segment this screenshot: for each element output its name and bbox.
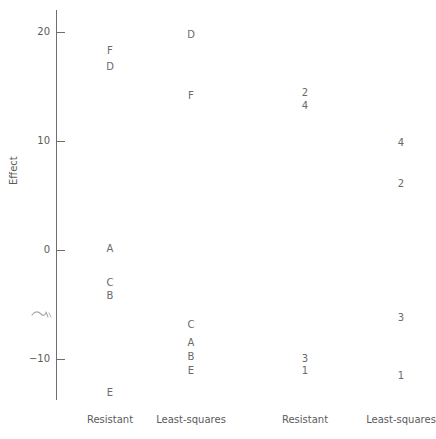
data-point-label: 4	[394, 138, 408, 148]
y-axis-tick-label: 0	[14, 245, 50, 255]
y-axis-tick-label: 20	[14, 27, 50, 37]
y-axis-tick-label-wrap: −10	[6, 354, 50, 364]
data-point-label: D	[184, 30, 198, 40]
x-axis-group-label: Least-squares	[366, 414, 436, 425]
data-point-label: 1	[298, 366, 312, 376]
x-axis-group-label: Resistant	[87, 414, 133, 425]
y-axis-tick	[56, 32, 65, 33]
data-point-label: 3	[298, 354, 312, 364]
data-point-label: 2	[298, 88, 312, 98]
data-point-label: 3	[394, 313, 408, 323]
data-point-label: 2	[394, 179, 408, 189]
data-point-label: C	[103, 278, 117, 288]
data-point-label: C	[184, 320, 198, 330]
scan-artifact-mark	[31, 305, 55, 317]
y-axis-title: Effect	[9, 156, 19, 185]
y-axis-tick	[56, 141, 65, 142]
x-axis-group-label: Least-squares	[156, 414, 226, 425]
data-point-label: A	[103, 244, 117, 254]
data-point-label: 1	[394, 371, 408, 381]
y-axis-tick	[56, 250, 65, 251]
data-point-label: F	[103, 46, 117, 56]
data-point-label: A	[184, 338, 198, 348]
data-point-label: B	[184, 352, 198, 362]
data-point-label: B	[103, 291, 117, 301]
y-axis-tick	[56, 359, 65, 360]
data-point-label: E	[103, 388, 117, 398]
data-point-label: D	[103, 62, 117, 72]
y-axis-tick-label: −10	[14, 354, 50, 364]
y-axis-tick-label: 10	[14, 136, 50, 146]
data-point-label: F	[184, 91, 198, 101]
data-point-label: E	[184, 366, 198, 376]
figure-caption	[4, 430, 416, 439]
y-axis-line	[56, 10, 57, 400]
y-axis-tick-label-wrap: 0	[6, 245, 50, 255]
y-axis-tick-label-wrap: 10	[6, 136, 50, 146]
y-axis-tick-label-wrap: 20	[6, 27, 50, 37]
data-point-label: 4	[298, 101, 312, 111]
x-axis-group-label: Resistant	[282, 414, 328, 425]
